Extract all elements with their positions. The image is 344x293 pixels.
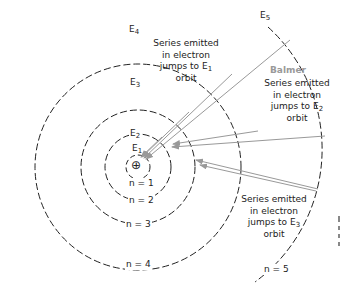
label-E3: E3 (129, 77, 141, 88)
label-n2: n = 2 (128, 195, 155, 206)
label-E4: E4 (128, 24, 140, 35)
series-E1-label: Series emitted in electron jumps to E1 o… (146, 38, 226, 84)
label-E1: E1 (131, 143, 143, 154)
nucleus-icon: ⊕ (130, 160, 142, 171)
edge-mark (338, 234, 340, 238)
edge-mark (338, 216, 340, 222)
label-n1: n = 1 (128, 178, 155, 189)
label-E2: E2 (129, 128, 141, 139)
label-E5: E5 (259, 10, 271, 21)
edge-mark (338, 242, 340, 246)
label-n3: n = 3 (125, 219, 152, 230)
balmer-label: Balmer (270, 65, 306, 77)
edge-mark (338, 226, 340, 230)
label-n5: n = 5 (263, 264, 290, 275)
series-E3-label: Series emitted in electron jumps to E3 o… (234, 194, 314, 240)
series-E2-label: Series emitted in electron jumps to E2 o… (254, 78, 340, 124)
label-n4: n = 4 (125, 259, 152, 270)
